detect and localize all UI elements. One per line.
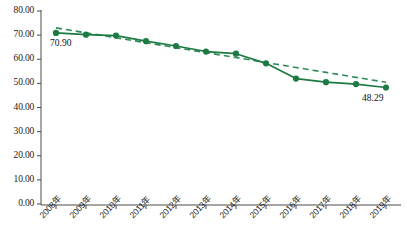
y-axis-tick-label: 10.00 [0, 174, 34, 184]
y-axis-tick-label: 50.00 [0, 77, 34, 87]
chart-container: 80.0070.0060.0050.0040.0030.0020.0010.00… [0, 0, 407, 251]
y-axis-ticks [37, 11, 41, 204]
chart-axes [41, 10, 401, 205]
y-axis-tick-label: 20.00 [0, 150, 34, 160]
y-axis-tick-label: 60.00 [0, 53, 34, 63]
data-series [56, 33, 386, 88]
data-point-value-label: 48.29 [362, 93, 383, 103]
y-axis-tick-label: 80.00 [0, 5, 34, 15]
data-point-value-label: 70.90 [50, 38, 71, 48]
data-point-markers [53, 30, 389, 91]
y-axis-tick-label: 40.00 [0, 102, 34, 112]
y-axis-tick-label: 0.00 [0, 198, 34, 208]
y-axis-tick-label: 70.00 [0, 29, 34, 39]
y-axis-tick-label: 30.00 [0, 126, 34, 136]
